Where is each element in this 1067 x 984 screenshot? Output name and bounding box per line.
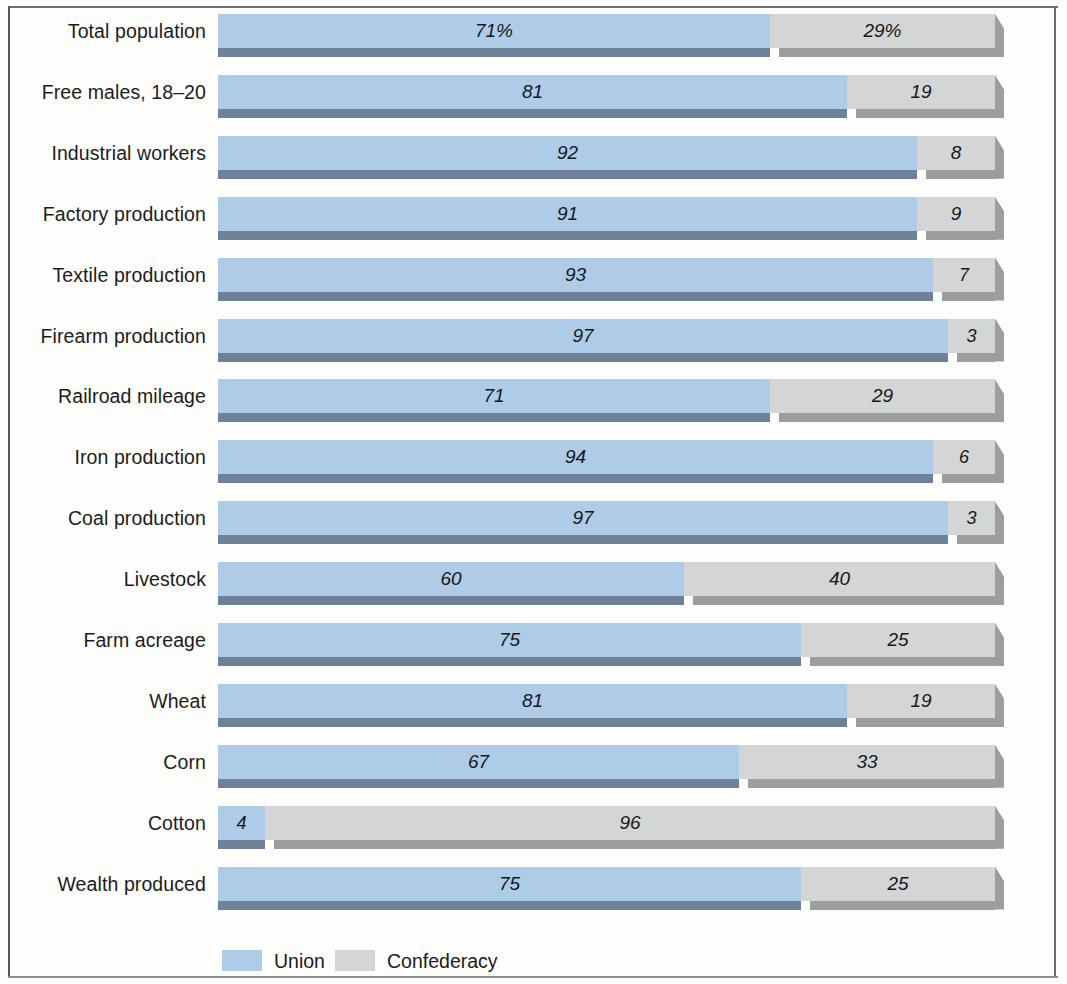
bar-value-union: 92 <box>218 136 917 170</box>
bar-segment-confederacy-bevel <box>810 657 995 666</box>
bar-segment-confederacy-bevel <box>856 718 995 727</box>
bar-segment-union-bevel <box>218 718 847 727</box>
bar-value-confederacy: 29 <box>770 379 995 413</box>
bar-track: 8119 <box>218 684 995 727</box>
bar-right-bevel-cap <box>995 136 1004 179</box>
chart-row: Railroad mileage7129 <box>0 379 1067 440</box>
bar-track: 928 <box>218 136 995 179</box>
stacked-bar-chart: Total population71%29%Free males, 18–208… <box>0 0 1067 984</box>
bar-right-bevel-cap <box>995 197 1004 240</box>
bar-value-union: 81 <box>218 684 847 718</box>
chart-row: Factory production919 <box>0 197 1067 258</box>
bar-value-confederacy: 25 <box>801 867 995 901</box>
row-category-label: Factory production <box>0 197 206 231</box>
bar-value-union: 97 <box>218 501 948 535</box>
bar-segment-confederacy-bevel <box>779 48 995 57</box>
bar-value-confederacy: 9 <box>917 197 995 231</box>
bar-value-union: 60 <box>218 562 684 596</box>
row-category-label: Iron production <box>0 440 206 474</box>
bar-segment-confederacy-bevel <box>779 413 995 422</box>
bar-value-confederacy: 19 <box>847 75 995 109</box>
chart-row: Firearm production973 <box>0 319 1067 380</box>
bar-value-union: 91 <box>218 197 917 231</box>
bar-right-bevel-cap <box>995 501 1004 544</box>
bar-segment-union-bevel <box>218 48 770 57</box>
row-category-label: Industrial workers <box>0 136 206 170</box>
bar-segment-union-bevel <box>218 292 933 301</box>
legend-swatch-union-icon <box>222 950 262 971</box>
bar-right-bevel-cap <box>995 319 1004 362</box>
bar-value-confederacy: 40 <box>684 562 995 596</box>
scanned-page: Total population71%29%Free males, 18–208… <box>0 0 1067 984</box>
bar-segment-union-bevel <box>218 413 770 422</box>
bar-value-confederacy: 29% <box>770 14 995 48</box>
chart-row: Total population71%29% <box>0 14 1067 75</box>
bar-right-bevel-cap <box>995 440 1004 483</box>
bar-segment-union-bevel <box>218 109 847 118</box>
chart-row: Coal production973 <box>0 501 1067 562</box>
bar-segment-confederacy-bevel <box>693 596 995 605</box>
chart-row: Farm acreage7525 <box>0 623 1067 684</box>
bar-value-confederacy: 3 <box>948 319 995 353</box>
bar-track: 7525 <box>218 623 995 666</box>
legend-label-confederacy: Confederacy <box>387 948 498 974</box>
bar-segment-confederacy-bevel <box>926 231 995 240</box>
row-category-label: Textile production <box>0 258 206 292</box>
bar-track: 8119 <box>218 75 995 118</box>
bar-right-bevel-cap <box>995 562 1004 605</box>
bar-track: 71%29% <box>218 14 995 57</box>
row-category-label: Free males, 18–20 <box>0 75 206 109</box>
bar-value-union: 71 <box>218 379 770 413</box>
bar-segment-confederacy-bevel <box>856 109 995 118</box>
bar-right-bevel-cap <box>995 806 1004 849</box>
bar-segment-union-bevel <box>218 901 801 910</box>
row-category-label: Total population <box>0 14 206 48</box>
bar-segment-confederacy-bevel <box>274 840 995 849</box>
bar-value-confederacy: 33 <box>739 745 995 779</box>
bar-right-bevel-cap <box>995 379 1004 422</box>
bar-track: 946 <box>218 440 995 483</box>
chart-row: Wheat8119 <box>0 684 1067 745</box>
chart-row: Industrial workers928 <box>0 136 1067 197</box>
bar-segment-confederacy-bevel <box>748 779 995 788</box>
bar-segment-union-bevel <box>218 474 933 483</box>
bar-segment-union-bevel <box>218 596 684 605</box>
legend-swatch-confederacy-icon <box>335 950 375 971</box>
bar-right-bevel-cap <box>995 14 1004 57</box>
chart-row: Free males, 18–208119 <box>0 75 1067 136</box>
chart-row: Wealth produced7525 <box>0 867 1067 928</box>
bar-value-union: 75 <box>218 623 801 657</box>
bar-segment-confederacy-bevel <box>810 901 995 910</box>
bar-segment-confederacy-bevel <box>942 474 995 483</box>
bar-right-bevel-cap <box>995 867 1004 910</box>
row-category-label: Firearm production <box>0 319 206 353</box>
bar-track: 7129 <box>218 379 995 422</box>
bar-value-union: 4 <box>218 806 265 840</box>
bar-right-bevel-cap <box>995 623 1004 666</box>
bar-track: 6040 <box>218 562 995 605</box>
bar-right-bevel-cap <box>995 684 1004 727</box>
row-category-label: Cotton <box>0 806 206 840</box>
bar-track: 496 <box>218 806 995 849</box>
bar-value-union: 81 <box>218 75 847 109</box>
bar-segment-union-bevel <box>218 170 917 179</box>
bar-value-confederacy: 96 <box>265 806 995 840</box>
bar-segment-confederacy-bevel <box>926 170 995 179</box>
row-category-label: Corn <box>0 745 206 779</box>
bar-segment-union-bevel <box>218 353 948 362</box>
bar-segment-union-bevel <box>218 535 948 544</box>
bar-segment-union-bevel <box>218 231 917 240</box>
row-category-label: Railroad mileage <box>0 379 206 413</box>
bar-segment-union-bevel <box>218 657 801 666</box>
bar-value-union: 97 <box>218 319 948 353</box>
bar-value-confederacy: 3 <box>948 501 995 535</box>
chart-row: Textile production937 <box>0 258 1067 319</box>
bar-right-bevel-cap <box>995 258 1004 301</box>
row-category-label: Wealth produced <box>0 867 206 901</box>
bar-track: 919 <box>218 197 995 240</box>
chart-row: Corn6733 <box>0 745 1067 806</box>
bar-segment-confederacy-bevel <box>942 292 995 301</box>
row-category-label: Livestock <box>0 562 206 596</box>
legend-label-union: Union <box>274 948 325 974</box>
bar-track: 937 <box>218 258 995 301</box>
